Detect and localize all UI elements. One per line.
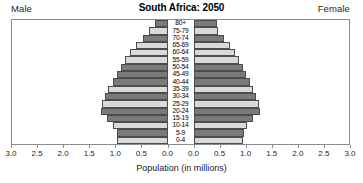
axis-tick-mark [63,145,64,148]
axis-tick-label: 2.0 [58,149,69,158]
male-bar [113,78,168,85]
age-group-label: 0-4 [168,137,194,144]
pyramid-row: 70-74 [12,35,349,42]
male-bar [155,20,168,27]
female-half [194,108,350,115]
axis-tick-label: 1.0 [240,149,251,158]
chart-title: South Africa: 2050 [0,2,363,13]
male-half [12,35,168,42]
male-half [12,122,168,129]
pyramid-row: 45-49 [12,71,349,78]
axis-tick-mark [194,145,195,148]
female-half [194,78,350,85]
axis-tick-mark [324,145,325,148]
female-bar [194,49,235,56]
female-half [194,71,350,78]
female-bar [194,71,246,78]
male-half [12,56,168,63]
pyramid-row: 55-59 [12,56,349,63]
axis-tick-mark [89,145,90,148]
pyramid-row: 40-44 [12,78,349,85]
age-group-label: 50-54 [168,64,194,71]
axis-tick-label: 0.0 [162,149,173,158]
female-half [194,100,350,107]
age-group-label: 30-34 [168,93,194,100]
axis-tick-mark [220,145,221,148]
female-half [194,115,350,122]
axis-tick-label: 2.5 [32,149,43,158]
male-bar [117,137,167,144]
female-half [194,137,350,144]
male-bar [136,42,168,49]
female-half [194,42,350,49]
male-bar [101,108,167,115]
age-group-label: 80+ [168,20,194,27]
age-group-label: 15-19 [168,115,194,122]
male-half [12,64,168,71]
male-bar [105,93,168,100]
axis-tick-label: 3.0 [5,149,16,158]
age-group-label: 5-9 [168,129,194,136]
female-bar [194,42,230,49]
axis-tick-mark [141,145,142,148]
male-bar [107,115,167,122]
female-bar [194,115,254,122]
axis-tick-label: 1.5 [266,149,277,158]
female-half [194,93,350,100]
pyramid-rows: 0-45-910-1415-1920-2425-2930-3435-3940-4… [12,20,349,144]
male-half [12,137,168,144]
male-bar [102,100,168,107]
male-half [12,115,168,122]
male-half [12,100,168,107]
age-group-label: 10-14 [168,122,194,129]
axis-tick-label: 2.5 [318,149,329,158]
female-half [194,129,350,136]
age-group-label: 40-44 [168,78,194,85]
axis-tick-mark [272,145,273,148]
female-side-label: Female [318,3,350,14]
male-bar [130,49,167,56]
female-half [194,122,350,129]
population-pyramid-chart: Male South Africa: 2050 Female 0-45-910-… [0,0,363,183]
axis-tick-mark [11,145,12,148]
pyramid-row: 0-4 [12,137,349,144]
female-bar [194,129,244,136]
age-group-label: 60-64 [168,49,194,56]
male-bar [143,35,168,42]
axis-tick-label: 0.5 [136,149,147,158]
female-bar [194,122,248,129]
age-group-label: 35-39 [168,86,194,93]
pyramid-row: 80+ [12,20,349,27]
axis-tick-mark [298,145,299,148]
pyramid-row: 75-79 [12,27,349,34]
female-bar [194,35,224,42]
female-half [194,86,350,93]
female-bar [194,108,260,115]
pyramid-row: 25-29 [12,100,349,107]
x-axis: 3.02.52.01.51.00.50.00.00.51.01.52.02.53… [11,145,350,163]
plot-area: 0-45-910-1415-1920-2425-2930-3435-3940-4… [11,19,350,145]
axis-tick-label: 0.5 [214,149,225,158]
age-group-label: 45-49 [168,71,194,78]
age-group-label: 55-59 [168,56,194,63]
male-half [12,108,168,115]
male-bar [113,122,167,129]
male-bar [117,71,167,78]
axis-tick-mark [168,145,169,148]
female-bar [194,86,254,93]
female-bar [194,64,243,71]
age-group-label: 65-69 [168,42,194,49]
male-half [12,78,168,85]
pyramid-row: 20-24 [12,108,349,115]
female-half [194,49,350,56]
age-group-label: 25-29 [168,100,194,107]
female-bar [194,93,257,100]
axis-tick-label: 2.0 [292,149,303,158]
male-half [12,71,168,78]
axis-tick-label: 0.0 [188,149,199,158]
axis-tick-mark [115,145,116,148]
x-axis-title: Population (in millions) [0,163,363,173]
female-half [194,56,350,63]
pyramid-row: 10-14 [12,122,349,129]
axis-tick-label: 3.0 [344,149,355,158]
